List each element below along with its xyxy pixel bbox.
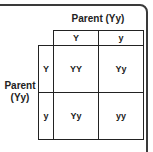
side-parent-label-line2: (Yy) bbox=[2, 92, 38, 104]
offspring-cell-1-2: Yy bbox=[98, 45, 144, 93]
top-parent-label: Parent (Yy) bbox=[53, 13, 143, 24]
offspring-cell-1-1: YY bbox=[53, 45, 99, 93]
row-allele-2: y bbox=[38, 92, 54, 140]
row-allele-1: Y bbox=[38, 45, 54, 93]
offspring-cell-2-1: Yy bbox=[53, 92, 99, 140]
side-parent-label-line1: Parent bbox=[2, 80, 38, 92]
column-allele-2: y bbox=[98, 30, 144, 46]
column-allele-1: Y bbox=[53, 30, 99, 46]
offspring-cell-2-2: yy bbox=[98, 92, 144, 140]
side-parent-label: Parent (Yy) bbox=[2, 80, 38, 104]
